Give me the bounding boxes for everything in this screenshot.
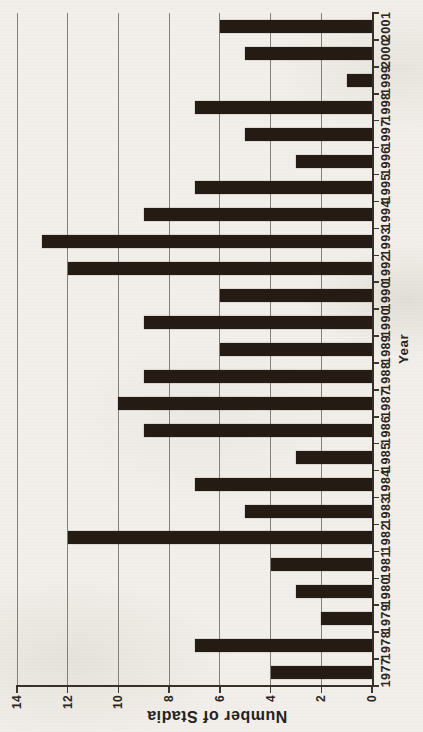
bar-1998 (195, 101, 373, 114)
bar-1983 (245, 505, 372, 518)
bar-2001 (220, 20, 372, 33)
year-tick-label: 1984 (379, 469, 393, 498)
value-tick-label: 0 (365, 695, 379, 702)
value-tick-label: 8 (162, 695, 176, 702)
value-tick-label: 2 (314, 695, 328, 702)
year-axis-line (372, 13, 374, 688)
bar-1988 (144, 370, 372, 383)
value-axis-tick (118, 688, 120, 694)
year-tick-label: 1995 (379, 173, 393, 202)
value-axis-tick (168, 688, 170, 694)
rotated-chart-stage: Number of Stadia Year 024681012141977197… (0, 0, 423, 732)
value-axis-title: Number of Stadia (147, 707, 287, 725)
year-tick-label: 1994 (379, 200, 393, 229)
bar-1999 (347, 74, 372, 87)
year-axis-title: Year (396, 334, 411, 364)
bar-1995 (195, 181, 373, 194)
bar-1996 (296, 155, 372, 168)
year-tick-label: 1981 (379, 550, 393, 579)
year-tick-label: 1997 (379, 119, 393, 148)
value-axis-tick (321, 688, 323, 694)
value-axis-tick (67, 688, 69, 694)
bar-1987 (118, 397, 372, 410)
stadia-bar-chart-scan: Number of Stadia Year 024681012141977197… (0, 0, 423, 732)
bar-1978 (195, 639, 373, 652)
year-tick-label: 1977 (379, 658, 393, 687)
year-tick-label: 1990 (379, 281, 393, 310)
bar-1984 (195, 478, 373, 491)
bar-1992 (68, 262, 372, 275)
value-tick-label: 10 (111, 695, 125, 709)
year-tick-label: 1982 (379, 523, 393, 552)
value-axis-tick (371, 688, 373, 694)
bar-1982 (68, 531, 372, 544)
bar-1994 (144, 208, 372, 221)
year-tick-label: 1978 (379, 631, 393, 660)
value-tick-label: 12 (61, 695, 75, 709)
year-tick-label: 2000 (379, 39, 393, 68)
bar-1993 (42, 235, 372, 248)
bar-1989 (220, 343, 372, 356)
value-tick-label: 4 (264, 695, 278, 702)
value-axis-tick (219, 688, 221, 694)
year-tick-label: 1985 (379, 442, 393, 471)
bar-1980 (296, 585, 372, 598)
bar-1979 (321, 612, 372, 625)
year-tick-label: 1990 (379, 308, 393, 337)
value-tick-label: 14 (10, 695, 24, 709)
gridline-14 (17, 13, 18, 686)
gridline-8 (169, 13, 170, 686)
bar-1977 (271, 666, 372, 679)
gridline-12 (67, 13, 68, 686)
bar-1986 (144, 424, 372, 437)
bar-1997 (245, 128, 372, 141)
value-axis-line (16, 686, 373, 688)
year-tick-label: 1999 (379, 66, 393, 95)
value-axis-tick (16, 688, 18, 694)
year-tick-label: 1996 (379, 146, 393, 175)
bar-1981 (271, 558, 372, 571)
bar-1990 (144, 316, 372, 329)
year-tick-label: 1986 (379, 416, 393, 445)
year-tick-label: 1998 (379, 93, 393, 122)
bar-2000 (245, 47, 372, 60)
year-tick-label: 1979 (379, 604, 393, 633)
year-tick-label: 1983 (379, 496, 393, 525)
year-tick-label: 1988 (379, 362, 393, 391)
bar-1985 (296, 451, 372, 464)
year-tick-label: 1993 (379, 227, 393, 256)
year-tick-label: 1989 (379, 335, 393, 364)
gridline-10 (118, 13, 119, 686)
bar-1990 (220, 289, 372, 302)
year-tick-label: 2001 (379, 12, 393, 41)
year-tick-label: 1987 (379, 389, 393, 418)
value-axis-tick (270, 688, 272, 694)
year-tick-label: 1992 (379, 254, 393, 283)
value-tick-label: 6 (213, 695, 227, 702)
year-tick-label: 1980 (379, 577, 393, 606)
